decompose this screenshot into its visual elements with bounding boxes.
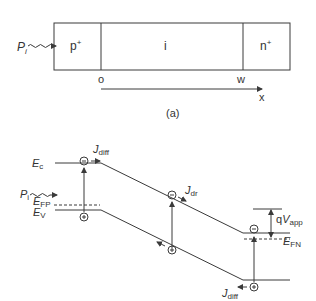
jdiff-bottom-label: Jdiff [221, 287, 239, 301]
ec-label: Ec [32, 157, 43, 171]
region-i-label: i [164, 39, 167, 53]
x-origin-label: o [98, 73, 104, 85]
qvapp-label: qVapp [276, 213, 303, 227]
jdr-label: Jdr [184, 184, 198, 198]
band-diagram [30, 157, 290, 291]
light-wave-icon [28, 45, 53, 48]
x-end-label: w [236, 73, 245, 85]
x-axis-label: x [259, 91, 265, 103]
input-power-label: Pi [20, 188, 29, 202]
jdiff-top-label: Jdiff [92, 143, 110, 157]
region-n-label: n+ [260, 38, 272, 53]
input-power-label: Pi [17, 40, 27, 56]
device-structure [28, 23, 290, 89]
caption: (a) [166, 107, 179, 119]
pin-photodiode-diagram: Pi p+ i n+ o w x (a) [0, 0, 316, 301]
efn-label: EFN [283, 235, 301, 249]
device-box [54, 23, 290, 70]
region-p-label: p+ [70, 38, 82, 53]
